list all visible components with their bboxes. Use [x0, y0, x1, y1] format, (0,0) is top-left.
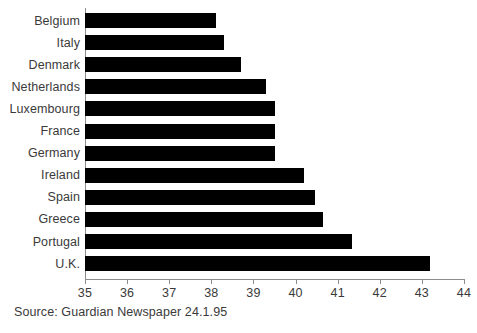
bar-row: Greece: [85, 212, 464, 227]
x-tick-mark: [422, 279, 423, 284]
x-tick-label: 38: [191, 286, 231, 300]
bar-row: Germany: [85, 146, 464, 161]
category-label: Belgium: [34, 14, 80, 28]
source-note: Source: Guardian Newspaper 24.1.95: [14, 305, 227, 319]
category-label: Spain: [48, 190, 80, 204]
x-tick-mark: [169, 279, 170, 284]
category-label: Greece: [38, 212, 80, 226]
bar-row: Denmark: [85, 57, 464, 72]
x-tick-mark: [211, 279, 212, 284]
category-label: Luxembourg: [10, 102, 81, 116]
bar: [85, 190, 315, 205]
category-label: Denmark: [29, 58, 80, 72]
bars-container: BelgiumItalyDenmarkNetherlandsLuxembourg…: [85, 8, 464, 279]
bar-chart: 35363738394041424344 BelgiumItalyDenmark…: [0, 0, 477, 333]
x-tick-label: 35: [65, 286, 105, 300]
bar-row: Luxembourg: [85, 101, 464, 116]
x-tick-mark: [85, 279, 86, 284]
bar: [85, 35, 224, 50]
bar: [85, 79, 266, 94]
x-tick-label: 36: [107, 286, 147, 300]
x-tick-label: 44: [444, 286, 477, 300]
x-tick-label: 42: [360, 286, 400, 300]
category-label: Netherlands: [11, 80, 80, 94]
category-label: Italy: [57, 36, 80, 50]
x-tick-label: 40: [276, 286, 316, 300]
category-label: U.K.: [55, 257, 80, 271]
category-label: Germany: [28, 146, 80, 160]
bar: [85, 256, 430, 271]
x-axis-line: [85, 279, 465, 280]
category-label: Ireland: [41, 168, 80, 182]
bar-row: Netherlands: [85, 79, 464, 94]
bar: [85, 168, 304, 183]
category-label: France: [40, 124, 80, 138]
bar-row: Spain: [85, 190, 464, 205]
bar: [85, 13, 216, 28]
bar: [85, 146, 275, 161]
x-tick-label: 39: [233, 286, 273, 300]
bar-row: Portugal: [85, 234, 464, 249]
category-label: Portugal: [33, 235, 80, 249]
bar: [85, 234, 352, 249]
x-tick-mark: [296, 279, 297, 284]
bar: [85, 57, 241, 72]
bar-row: France: [85, 124, 464, 139]
x-tick-mark: [338, 279, 339, 284]
x-tick-label: 43: [402, 286, 442, 300]
bar: [85, 212, 323, 227]
bar-row: Belgium: [85, 13, 464, 28]
x-tick-mark: [253, 279, 254, 284]
bar-row: Ireland: [85, 168, 464, 183]
x-tick-mark: [127, 279, 128, 284]
bar-row: Italy: [85, 35, 464, 50]
x-tick-mark: [380, 279, 381, 284]
bar: [85, 124, 275, 139]
bar: [85, 101, 275, 116]
x-tick-label: 41: [318, 286, 358, 300]
x-tick-mark: [464, 279, 465, 284]
bar-row: U.K.: [85, 256, 464, 271]
x-tick-label: 37: [149, 286, 189, 300]
